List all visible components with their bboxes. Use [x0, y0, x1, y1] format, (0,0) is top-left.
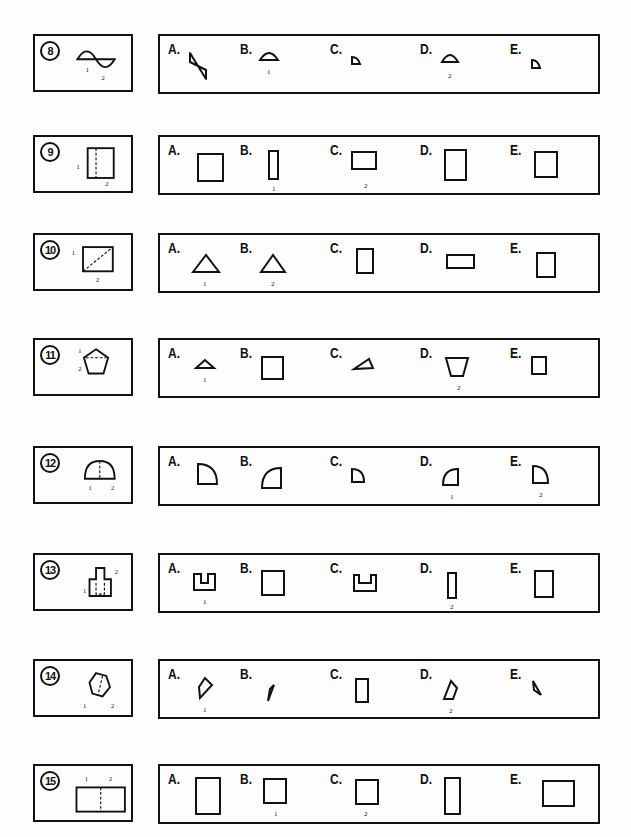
question-box: 10 1 2 — [33, 233, 133, 291]
question-box: 15 1 2 — [33, 764, 133, 822]
option-a[interactable]: A. 1 — [168, 239, 228, 289]
question-box: 12 1 2 — [33, 446, 133, 504]
question-row-8: 8 1 2 A. B. 1 C. D. 2 E. — [0, 34, 631, 96]
thin-triangle-icon — [240, 665, 300, 715]
quarter-circle-icon — [240, 452, 300, 502]
svg-text:2: 2 — [102, 74, 105, 81]
option-e[interactable]: E. — [510, 141, 570, 191]
small-triangle-icon: 1 — [168, 344, 228, 394]
option-a[interactable]: A. 1 — [168, 665, 228, 715]
question-row-12: 12 1 2 A. B. C. D. 1 E. 2 — [0, 446, 631, 508]
option-c[interactable]: C. 2 — [330, 770, 390, 820]
question-row-11: 11 1 2 A. 1 B. C. D. 2 E. — [0, 338, 631, 400]
square-icon — [510, 141, 570, 191]
option-a[interactable]: A. — [168, 452, 228, 502]
option-c[interactable]: C. — [330, 559, 390, 609]
option-b[interactable]: B. 1 — [240, 770, 300, 820]
question-box: 8 1 2 — [33, 34, 133, 92]
trapezoid-icon: 2 — [420, 344, 480, 394]
square-icon: 2 — [330, 770, 390, 820]
rectangle-diagonal-figure-icon: 1 2 — [35, 235, 131, 289]
quadrilateral-icon: 2 — [420, 665, 480, 715]
option-b[interactable]: B. — [240, 344, 300, 394]
answer-box: A. 1 B. C. D. 2 E. — [158, 338, 600, 398]
option-a[interactable]: A. 1 — [168, 344, 228, 394]
svg-text:2: 2 — [111, 702, 114, 709]
answer-box: A. B. 1 C. 2 D. E. — [158, 135, 600, 195]
square-icon: 1 — [240, 770, 300, 820]
option-d[interactable]: D. 2 — [420, 559, 480, 609]
option-d[interactable]: D. — [420, 239, 480, 289]
small-quarter-circle-icon: 2 — [510, 452, 570, 502]
square-dashed-figure-icon: 1 2 — [35, 137, 131, 191]
option-e[interactable]: E. — [510, 239, 570, 289]
option-b[interactable]: B. — [240, 665, 300, 715]
option-a[interactable]: A. — [168, 40, 228, 90]
option-c[interactable]: C. — [330, 665, 390, 715]
svg-text:1: 1 — [274, 810, 278, 818]
wide-u-shape-icon — [330, 559, 390, 609]
semicircle-icon: 1 — [240, 40, 300, 90]
option-c[interactable]: C. — [330, 344, 390, 394]
option-b[interactable]: B. — [240, 452, 300, 502]
svg-text:1: 1 — [267, 68, 271, 76]
svg-text:2: 2 — [115, 568, 118, 575]
option-e[interactable]: E. 2 — [510, 452, 570, 502]
quarter-circle-icon — [330, 40, 390, 90]
u-shape-icon: 1 — [168, 559, 228, 609]
answer-box: A. B. 1 C. 2 D. E. — [158, 764, 600, 824]
option-b[interactable]: B. 1 — [240, 141, 300, 191]
quadrilateral-icon: 1 — [168, 665, 228, 715]
tall-rectangle-icon: 2 — [420, 559, 480, 609]
svg-text:2: 2 — [105, 180, 108, 187]
option-e[interactable]: E. — [510, 344, 570, 394]
rectangle-icon — [510, 239, 570, 289]
svg-text:2: 2 — [78, 365, 81, 372]
option-d[interactable]: D. — [420, 770, 480, 820]
svg-text:1: 1 — [89, 484, 92, 491]
option-c[interactable]: C. — [330, 239, 390, 289]
option-b[interactable]: B. 1 — [240, 40, 300, 90]
tall-rectangle-icon: 1 — [240, 141, 300, 191]
svg-text:1: 1 — [72, 249, 75, 256]
svg-text:2: 2 — [539, 491, 543, 499]
tall-rectangle-icon — [420, 770, 480, 820]
option-d[interactable]: D. 2 — [420, 40, 480, 90]
option-d[interactable]: D. 1 — [420, 452, 480, 502]
svg-text:1: 1 — [76, 163, 79, 170]
sine-wave-figure-icon: 1 2 — [35, 36, 131, 90]
option-e[interactable]: E. — [510, 665, 570, 715]
quarter-circle-icon — [510, 40, 570, 90]
option-e[interactable]: E. — [510, 40, 570, 90]
option-d[interactable]: D. 2 — [420, 665, 480, 715]
question-row-13: 13 1 2 A. 1 B. C. D. 2 E. — [0, 553, 631, 615]
answer-box: A. 1 B. C. D. 2 E. — [158, 659, 600, 719]
option-e[interactable]: E. — [510, 770, 570, 820]
option-c[interactable]: C. 2 — [330, 141, 390, 191]
option-d[interactable]: D. 2 — [420, 344, 480, 394]
answer-box: A. B. 1 C. D. 2 E. — [158, 34, 600, 94]
square-icon — [168, 141, 228, 191]
hexagon-figure-icon: 1 2 — [35, 661, 131, 715]
option-a[interactable]: A. 1 — [168, 559, 228, 609]
rectangle-icon — [510, 559, 570, 609]
option-c[interactable]: C. — [330, 40, 390, 90]
answer-box: A. 1 B. 2 C. D. E. — [158, 233, 600, 293]
svg-text:1: 1 — [272, 185, 276, 193]
svg-text:2: 2 — [271, 280, 275, 288]
svg-text:1: 1 — [203, 706, 207, 714]
option-b[interactable]: B. 2 — [240, 239, 300, 289]
option-a[interactable]: A. — [168, 141, 228, 191]
answer-box: A. B. C. D. 1 E. 2 — [158, 446, 600, 506]
question-row-9: 9 1 2 A. B. 1 C. 2 D. E. — [0, 135, 631, 197]
option-c[interactable]: C. — [330, 452, 390, 502]
option-d[interactable]: D. — [420, 141, 480, 191]
triangle-icon: 2 — [240, 239, 300, 289]
option-a[interactable]: A. — [168, 770, 228, 820]
option-e[interactable]: E. — [510, 559, 570, 609]
answer-box: A. 1 B. C. D. 2 E. — [158, 553, 600, 613]
question-row-10: 10 1 2 A. 1 B. 2 C. D. E. — [0, 233, 631, 295]
pentagon-figure-icon: 1 2 — [35, 340, 131, 394]
option-b[interactable]: B. — [240, 559, 300, 609]
svg-text:2: 2 — [448, 72, 452, 80]
